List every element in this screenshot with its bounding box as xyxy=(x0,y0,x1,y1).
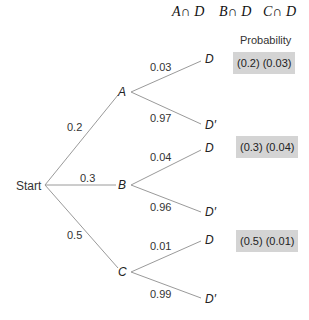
prob-c-dprime: 0.99 xyxy=(150,288,171,300)
prob-a: 0.2 xyxy=(67,121,82,133)
leaf-b-d: D xyxy=(205,141,214,155)
leaf-a-d: D xyxy=(205,52,214,66)
prob-b-d: 0.04 xyxy=(150,151,171,163)
prob-c: 0.5 xyxy=(67,229,82,241)
event-b-and-d: B∩ D xyxy=(219,4,251,20)
prob-b-dprime: 0.96 xyxy=(150,201,171,213)
leaf-a-dprime: D′ xyxy=(205,118,216,132)
prob-b: 0.3 xyxy=(80,172,95,184)
node-a: A xyxy=(118,85,126,99)
event-c-and-d: C∩ D xyxy=(263,4,296,20)
prob-c-d: 0.01 xyxy=(150,240,171,252)
node-b: B xyxy=(118,178,126,192)
event-a-and-d: A∩ D xyxy=(172,4,204,20)
leaf-b-dprime: D′ xyxy=(205,205,216,219)
node-c: C xyxy=(118,265,127,279)
branch-start-c xyxy=(45,185,118,268)
start-label: Start xyxy=(16,179,41,193)
result-b-and-d: (0.3) (0.04) xyxy=(236,136,298,158)
prob-a-dprime: 0.97 xyxy=(150,112,171,124)
result-a-and-d: (0.2) (0.03) xyxy=(233,52,295,74)
probability-heading: Probability xyxy=(240,34,291,46)
result-c-and-d: (0.5) (0.01) xyxy=(236,230,298,252)
leaf-c-d: D xyxy=(205,233,214,247)
prob-a-d: 0.03 xyxy=(150,61,171,73)
leaf-c-dprime: D′ xyxy=(205,292,216,306)
